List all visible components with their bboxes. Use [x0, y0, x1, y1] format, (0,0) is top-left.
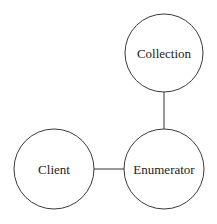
node-enumerator: Enumerator: [124, 129, 204, 209]
node-client-label: Client: [38, 162, 70, 177]
node-enumerator-label: Enumerator: [133, 162, 195, 177]
diagram-canvas: Collection Client Enumerator: [0, 0, 217, 224]
node-collection-label: Collection: [137, 46, 192, 61]
node-client: Client: [14, 129, 94, 209]
node-collection: Collection: [125, 14, 203, 92]
